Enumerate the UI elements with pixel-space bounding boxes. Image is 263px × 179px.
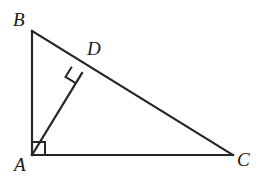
segment-bc <box>32 31 233 155</box>
triangle-diagram <box>0 0 263 179</box>
vertex-label-b: B <box>13 10 25 29</box>
vertex-label-a: A <box>14 155 26 174</box>
geometry-figure: B D A C <box>0 0 263 179</box>
vertex-label-c: C <box>237 150 250 169</box>
vertex-label-d: D <box>87 39 101 58</box>
